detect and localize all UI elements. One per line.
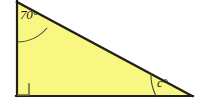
top-angle-label: 70° xyxy=(20,8,38,21)
triangle-figure: 70° c° xyxy=(0,0,199,107)
bottom-right-angle-label: c° xyxy=(157,76,168,89)
